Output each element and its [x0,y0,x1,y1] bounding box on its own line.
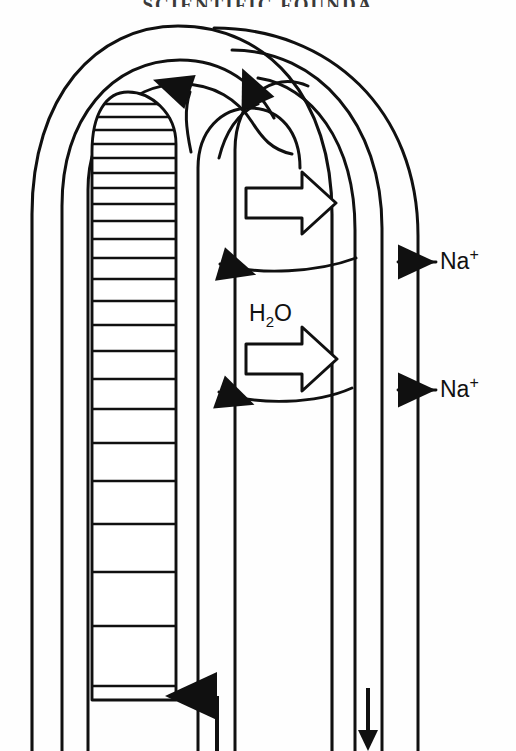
label-water-sub: 2 [266,313,274,330]
diagram-canvas: SCIENTIFIC FOUNDA [0,0,516,751]
descending-limb-lumen [92,92,176,700]
label-water-o: O [274,300,292,326]
outer-wall-outline [32,26,332,751]
label-water: H2O [249,300,292,330]
label-sodium-lower: Na+ [440,374,479,403]
sodium-inflow-arrow-lower [219,388,436,401]
label-sodium-upper: Na+ [440,246,479,275]
water-efflux-arrow-upper [246,172,336,234]
ascending-limb-outline [198,82,308,751]
label-sodium-upper-charge: + [469,246,478,263]
loop-of-henle-diagram [0,0,516,751]
collecting-duct-walls [214,28,418,751]
label-sodium-upper-text: Na [440,248,469,274]
apex-flow-arrow-left [186,92,191,152]
descending-flow-arrow [358,688,378,751]
sodium-inflow-arrow-upper [220,258,436,271]
water-efflux-arrow-lower [246,327,337,391]
label-water-h: H [249,300,266,326]
label-sodium-lower-text: Na [440,376,469,402]
label-sodium-lower-charge: + [469,374,478,391]
apex-flow-arrow-right [219,104,258,158]
